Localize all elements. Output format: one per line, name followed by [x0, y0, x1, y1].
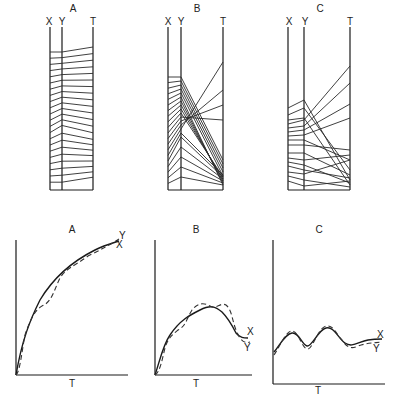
profile-line [50, 86, 93, 89]
profile-line [50, 92, 93, 96]
axis-label-t: T [347, 16, 353, 27]
profile-line [168, 62, 223, 150]
x-axis-label: T [193, 378, 199, 389]
panel-title: B [193, 224, 200, 235]
x-axis-label: T [315, 385, 321, 396]
curve-panel-a: A T Y X [16, 224, 128, 389]
curve-panel-b: B T X Y [155, 224, 254, 389]
profile-line [50, 166, 93, 169]
profile-line [50, 73, 93, 76]
profile-line [168, 177, 223, 185]
axis-label-x: X [165, 16, 172, 27]
profile-line [50, 154, 93, 157]
profile-line [50, 54, 93, 59]
axis-label-y: Y [178, 16, 185, 27]
profile-line [50, 177, 93, 182]
profile-line [50, 172, 93, 176]
profile-line [50, 103, 93, 108]
series-y-curve [16, 239, 119, 375]
profile-line [50, 140, 93, 145]
profile-line [288, 145, 350, 150]
series-label-x: X [377, 329, 384, 340]
profile-line [288, 108, 350, 170]
x-axis-label: T [69, 378, 75, 389]
profile-line [50, 125, 93, 132]
profile-line [50, 161, 93, 164]
profile-line [288, 66, 350, 124]
profile-line [50, 133, 93, 139]
series-x-curve [16, 241, 119, 375]
panel-title: A [70, 3, 77, 14]
parallel-panel-a: A X Y T [46, 3, 96, 190]
parallel-panel-b: B X Y T [165, 3, 226, 190]
axis-label-t: T [220, 16, 226, 27]
series-y-curve [155, 304, 250, 375]
axis-label-y: Y [59, 16, 66, 27]
profile-line [50, 80, 93, 83]
axis-label-t: T [90, 16, 96, 27]
series-label-x: X [247, 326, 254, 337]
panel-title: C [316, 3, 323, 14]
profile-line [50, 97, 93, 101]
panel-title: A [69, 224, 76, 235]
profile-line [288, 176, 350, 187]
curve-panel-c: C T X Y [273, 224, 385, 396]
profile-line [50, 114, 93, 120]
series-x-curve [155, 307, 248, 375]
axis-label-y: Y [302, 16, 309, 27]
profile-line [50, 67, 93, 71]
series-label-y: Y [373, 343, 380, 354]
panel-title: B [194, 3, 201, 14]
parallel-panel-c: C X Y T [286, 3, 353, 190]
series-label-x: X [116, 239, 123, 250]
profile-line [50, 60, 93, 64]
figure: A X Y T B X Y T C X Y T A T [0, 0, 395, 396]
panel-title: C [315, 224, 322, 235]
profile-line [50, 109, 93, 115]
profile-line [50, 147, 93, 151]
axis-label-x: X [46, 16, 53, 27]
series-label-y: Y [244, 342, 251, 353]
profile-line [50, 47, 93, 52]
axis-label-x: X [286, 16, 293, 27]
profile-line [50, 120, 93, 127]
